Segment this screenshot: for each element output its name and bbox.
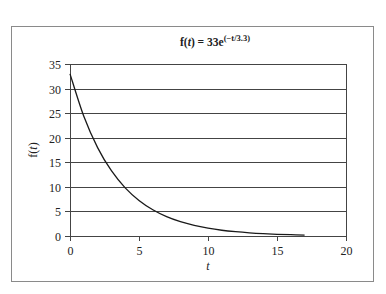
title-prefix: f( <box>180 36 188 49</box>
ylabel-suffix: ) <box>26 142 40 146</box>
y-tick-label: 10 <box>49 181 61 195</box>
title-mid: ) = 33e <box>191 36 224 49</box>
y-tick-label: 5 <box>55 205 61 219</box>
y-axis-label-text: f(t) <box>26 142 40 157</box>
x-tick-label: 15 <box>272 244 284 258</box>
chart-figure: f(t) = 33e(−t/3.3) 05101520 051015202530… <box>0 0 386 294</box>
title-exponent: (−t/3.3) <box>224 33 250 43</box>
x-tick-label: 10 <box>203 244 215 258</box>
x-tick-label: 5 <box>137 244 143 258</box>
y-tick-label: 35 <box>49 58 61 72</box>
ylabel-prefix: f( <box>26 150 40 158</box>
y-tick-label: 0 <box>55 230 61 244</box>
y-tick-label: 25 <box>49 107 61 121</box>
y-tick-label: 30 <box>49 83 61 97</box>
x-tick-label: 0 <box>68 244 74 258</box>
y-tick-label: 15 <box>49 156 61 170</box>
y-tick-label: 20 <box>49 132 61 146</box>
y-axis-label: f(t) <box>26 142 40 157</box>
x-tick-label: 20 <box>341 244 353 258</box>
